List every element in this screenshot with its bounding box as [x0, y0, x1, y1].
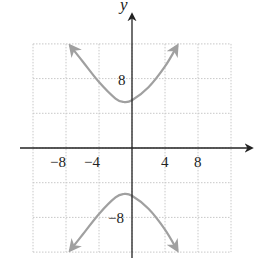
x-tick-label-neg4: −4	[84, 154, 100, 170]
x-tick-label-4: 4	[161, 154, 169, 170]
y-tick-label-neg8: −8	[108, 210, 124, 226]
x-tick-label-neg8: −8	[50, 154, 66, 170]
y-axis-title: y	[118, 0, 128, 14]
hyperbola-graph: y −8 −4 4 8 8 −8	[0, 0, 267, 261]
y-tick-label-8: 8	[118, 72, 126, 88]
x-tick-label-8: 8	[194, 154, 202, 170]
